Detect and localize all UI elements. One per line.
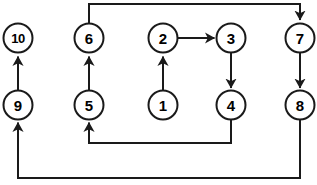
node-label-4: 4 (227, 97, 236, 114)
node-label-8: 8 (296, 97, 304, 114)
node-6[interactable]: 6 (75, 24, 104, 53)
node-3[interactable]: 3 (217, 24, 246, 53)
node-label-1: 1 (159, 97, 167, 114)
node-label-10: 10 (11, 31, 25, 46)
node-label-6: 6 (85, 30, 93, 47)
edge-4-to-5 (89, 120, 231, 144)
node-7[interactable]: 7 (286, 24, 315, 53)
node-8[interactable]: 8 (286, 91, 315, 120)
flow-diagram: 12345678910 (0, 0, 317, 185)
node-label-9: 9 (14, 97, 22, 114)
node-label-2: 2 (159, 30, 167, 47)
node-1[interactable]: 1 (149, 91, 178, 120)
node-4[interactable]: 4 (217, 91, 246, 120)
edge-8-to-9 (18, 120, 300, 179)
node-10[interactable]: 10 (4, 24, 33, 53)
nodes-layer: 12345678910 (4, 24, 315, 120)
node-2[interactable]: 2 (149, 24, 178, 53)
node-9[interactable]: 9 (4, 91, 33, 120)
edge-6-to-7 (89, 4, 300, 24)
diagram-canvas: 12345678910 (0, 0, 317, 185)
node-5[interactable]: 5 (75, 91, 104, 120)
node-label-3: 3 (227, 30, 235, 47)
node-label-7: 7 (296, 30, 304, 47)
node-label-5: 5 (85, 97, 93, 114)
